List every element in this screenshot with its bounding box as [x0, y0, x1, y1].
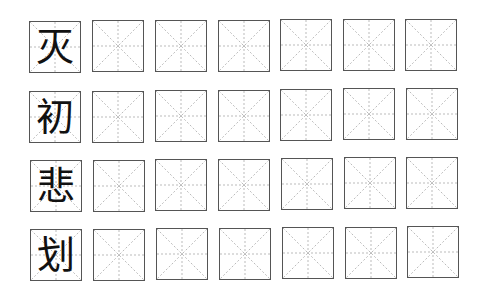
practice-cell[interactable] [280, 19, 332, 71]
mi-grid-guides [93, 21, 143, 71]
mi-grid-guides [282, 159, 332, 209]
practice-cell[interactable] [407, 226, 459, 278]
practice-cell[interactable] [155, 90, 207, 142]
mi-grid-guides [408, 227, 458, 277]
mi-grid-guides [281, 20, 331, 70]
practice-row-1: 灭 [0, 20, 488, 76]
mi-grid-guides [283, 228, 333, 278]
mi-grid-guides [93, 92, 143, 142]
model-character-cell: 灭 [29, 21, 81, 73]
mi-grid-guides [156, 160, 206, 210]
mi-grid-guides [345, 158, 395, 208]
practice-cell[interactable] [219, 228, 271, 280]
practice-cell[interactable] [343, 19, 395, 71]
model-character-cell: 划 [30, 229, 82, 281]
model-character: 灭 [30, 22, 80, 72]
model-character-cell: 悲 [30, 160, 82, 212]
mi-grid-guides [346, 228, 396, 278]
practice-cell[interactable] [92, 91, 144, 143]
mi-grid-guides [344, 89, 394, 139]
practice-cell[interactable] [156, 228, 208, 280]
practice-cell[interactable] [406, 88, 458, 140]
mi-grid-guides [156, 91, 206, 141]
model-character: 初 [30, 92, 80, 142]
mi-grid-guides [94, 161, 144, 211]
practice-cell[interactable] [92, 20, 144, 72]
writing-practice-sheet: 灭 初 悲 划 [0, 0, 488, 296]
mi-grid-guides [406, 20, 456, 70]
model-character-cell: 初 [29, 91, 81, 143]
practice-row-2: 初 [0, 89, 488, 145]
mi-grid-guides [344, 20, 394, 70]
practice-cell[interactable] [281, 158, 333, 210]
mi-grid-guides [407, 89, 457, 139]
practice-cell[interactable] [93, 160, 145, 212]
mi-grid-guides [157, 229, 207, 279]
practice-cell[interactable] [405, 19, 457, 71]
mi-grid-guides [219, 21, 269, 71]
practice-cell[interactable] [218, 159, 270, 211]
practice-cell[interactable] [93, 229, 145, 281]
mi-grid-guides [219, 160, 269, 210]
model-character: 划 [31, 230, 81, 280]
practice-cell[interactable] [345, 227, 397, 279]
mi-grid-guides [281, 90, 331, 140]
practice-cell[interactable] [218, 90, 270, 142]
practice-row-3: 悲 [0, 158, 488, 214]
mi-grid-guides [94, 230, 144, 280]
mi-grid-guides [407, 158, 457, 208]
practice-cell[interactable] [280, 89, 332, 141]
practice-cell[interactable] [406, 157, 458, 209]
practice-cell[interactable] [155, 20, 207, 72]
practice-cell[interactable] [282, 227, 334, 279]
mi-grid-guides [219, 91, 269, 141]
practice-row-4: 划 [0, 227, 488, 283]
mi-grid-guides [220, 229, 270, 279]
practice-cell[interactable] [343, 88, 395, 140]
practice-cell[interactable] [155, 159, 207, 211]
model-character: 悲 [31, 161, 81, 211]
practice-cell[interactable] [344, 157, 396, 209]
practice-cell[interactable] [218, 20, 270, 72]
mi-grid-guides [156, 21, 206, 71]
